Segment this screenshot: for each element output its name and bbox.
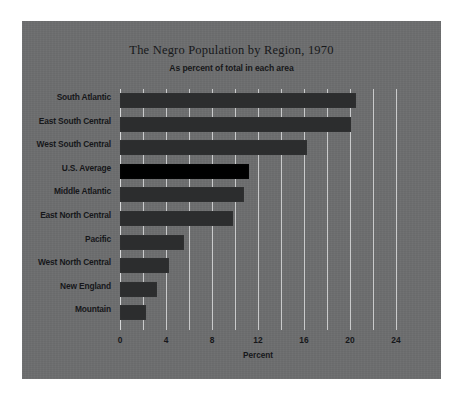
x-axis-title: Percent — [243, 351, 273, 360]
chart-panel: The Negro Population by Region, 1970 As … — [22, 21, 441, 379]
chart-screenshot: The Negro Population by Region, 1970 As … — [0, 0, 467, 401]
bar-label: Pacific — [85, 234, 111, 244]
x-tick-12: 12 — [253, 335, 262, 345]
bar-new-england — [120, 282, 157, 297]
x-tick-20: 20 — [345, 335, 354, 345]
bar-south-atlantic — [120, 93, 356, 108]
plot-area: South AtlanticEast South CentralWest Sou… — [120, 89, 396, 325]
bar-row: West South Central — [120, 136, 396, 160]
bar-row: East North Central — [120, 207, 396, 231]
bar-row: South Atlantic — [120, 89, 396, 113]
bar-row: West North Central — [120, 254, 396, 278]
bar-row: East South Central — [120, 113, 396, 137]
bar-label: Middle Atlantic — [54, 186, 111, 196]
bar-row: Middle Atlantic — [120, 183, 396, 207]
title-block: The Negro Population by Region, 1970 As … — [22, 43, 441, 73]
bar-row: U.S. Average — [120, 160, 396, 184]
bar-label: West North Central — [38, 257, 111, 267]
x-tick-4: 4 — [164, 335, 169, 345]
bar-series: South AtlanticEast South CentralWest Sou… — [120, 89, 396, 325]
x-tick-24: 24 — [391, 335, 400, 345]
bar-middle-atlantic — [120, 187, 244, 202]
bar-mountain — [120, 305, 146, 320]
bar-west-south-central — [120, 140, 307, 155]
bar-east-north-central — [120, 211, 233, 226]
page-title: The Negro Population by Region, 1970 — [22, 43, 441, 58]
bar-label: South Atlantic — [57, 92, 111, 102]
bar-label: East North Central — [40, 210, 111, 220]
x-tick-16: 16 — [299, 335, 308, 345]
bar-label: New England — [60, 281, 111, 291]
bar-label: West South Central — [37, 139, 111, 149]
bar-label: Mountain — [75, 304, 111, 314]
bar-row: Pacific — [120, 231, 396, 255]
bar-u-s-average — [120, 164, 249, 179]
bar-east-south-central — [120, 117, 351, 132]
bar-pacific — [120, 235, 184, 250]
x-tick-0: 0 — [118, 335, 123, 345]
bar-west-north-central — [120, 258, 169, 273]
x-axis: 04812162024 Percent — [120, 325, 396, 365]
chart-subtitle: As percent of total in each area — [22, 63, 441, 73]
x-tick-8: 8 — [210, 335, 215, 345]
bar-label: U.S. Average — [62, 163, 111, 173]
gridline-24 — [396, 89, 397, 330]
bar-row: New England — [120, 278, 396, 302]
bar-row: Mountain — [120, 301, 396, 325]
bar-label: East South Central — [39, 116, 111, 126]
